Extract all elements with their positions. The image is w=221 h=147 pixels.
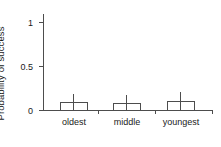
y-tick-label-1: 1 bbox=[28, 18, 33, 28]
y-axis-spine bbox=[43, 14, 44, 111]
y-tick-label-0: 0 bbox=[28, 106, 33, 116]
bar-middle bbox=[113, 103, 141, 111]
x-tick-boundary-1 bbox=[98, 110, 99, 114]
x-tick-label-youngest: youngest bbox=[163, 117, 200, 127]
x-tick-label-oldest: oldest bbox=[62, 117, 86, 127]
bar-oldest bbox=[60, 102, 88, 111]
error-bar-oldest bbox=[73, 94, 74, 111]
error-bar-middle bbox=[126, 95, 127, 111]
x-tick-boundary-3 bbox=[212, 110, 213, 114]
x-tick-label-middle: middle bbox=[114, 117, 141, 127]
y-tick-1: 1 bbox=[39, 22, 43, 23]
bar-chart-figure: Probability of success 1 0.5 0 oldest mi… bbox=[0, 0, 221, 147]
x-tick-boundary-2 bbox=[155, 110, 156, 114]
error-bar-youngest bbox=[180, 92, 181, 111]
y-tick-label-0_5: 0.5 bbox=[20, 62, 33, 72]
bar-youngest bbox=[167, 101, 195, 111]
y-axis-title: Probability of success bbox=[0, 0, 22, 147]
y-tick-0_5: 0.5 bbox=[39, 66, 43, 67]
plot-area: 1 0.5 0 oldest middle youngest bbox=[43, 14, 213, 110]
y-tick-0: 0 bbox=[39, 110, 43, 111]
